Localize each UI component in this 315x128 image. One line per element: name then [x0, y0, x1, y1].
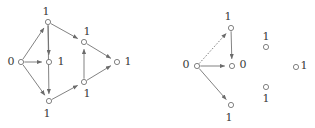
graph-node[interactable] [46, 98, 51, 103]
graph-node[interactable] [81, 39, 86, 44]
node-label: 1 [44, 108, 51, 119]
node-label: 1 [43, 6, 50, 17]
graph-node[interactable] [114, 59, 119, 64]
node-label: 1 [84, 26, 91, 37]
node-label: 1 [226, 112, 233, 123]
left-directed-graph-edges [23, 24, 111, 100]
node-label: 0 [240, 59, 247, 70]
right-directed-graph-nodes [194, 25, 298, 107]
graph-edge [199, 33, 226, 63]
graph-edge [23, 28, 44, 59]
node-label: 1 [263, 93, 270, 104]
node-label: 1 [84, 88, 91, 99]
graph-edge [87, 44, 111, 59]
graph-node[interactable] [229, 63, 234, 68]
graph-edge [52, 85, 78, 99]
right-directed-graph-edges [199, 31, 232, 99]
graph-edge [87, 66, 111, 81]
graph-node[interactable] [46, 59, 51, 64]
graph-node[interactable] [45, 19, 50, 24]
graph-node[interactable] [228, 102, 233, 107]
node-label: 0 [8, 56, 15, 67]
node-label: 1 [125, 56, 132, 67]
graph-edge [23, 65, 45, 95]
graph-node[interactable] [81, 79, 86, 84]
graph-edge [231, 31, 232, 59]
graph-node[interactable] [293, 64, 298, 69]
node-label: 1 [225, 11, 232, 22]
node-label: 1 [301, 60, 308, 71]
left-directed-graph-nodes [18, 19, 119, 103]
node-label: 0 [183, 59, 190, 70]
node-label: 1 [263, 31, 270, 42]
node-label: 1 [58, 56, 65, 67]
graph-node[interactable] [18, 59, 23, 64]
graph-node[interactable] [228, 25, 233, 30]
diagram-canvas: 10111111001111 [0, 0, 315, 128]
graph-node[interactable] [194, 63, 199, 68]
graph-node[interactable] [263, 44, 268, 49]
graph-edge [199, 68, 226, 99]
graph-node[interactable] [263, 84, 268, 89]
graph-edge [51, 24, 78, 39]
